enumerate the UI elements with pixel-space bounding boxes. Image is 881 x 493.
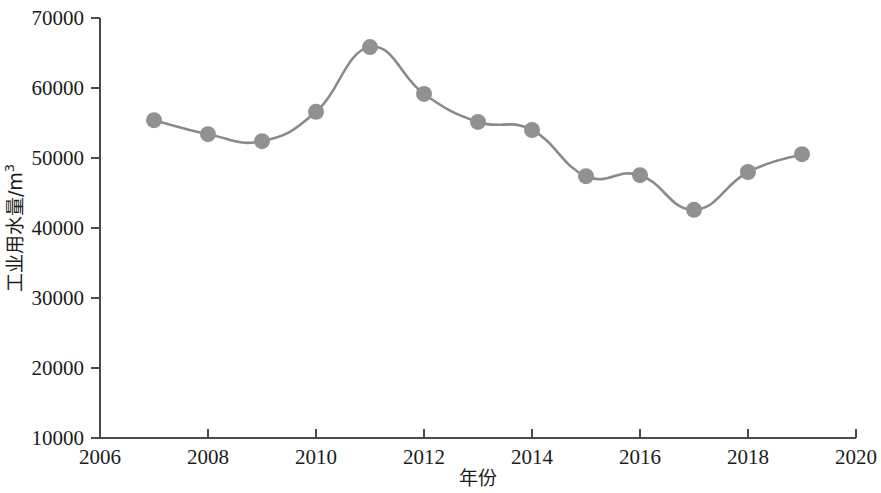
y-tick-label: 70000 <box>32 6 85 30</box>
data-point <box>362 39 378 55</box>
data-point <box>632 167 648 183</box>
x-axis-title: 年份 <box>459 467 497 489</box>
y-tick-label: 10000 <box>32 426 85 450</box>
y-tick-label: 20000 <box>32 356 85 380</box>
data-point <box>578 168 594 184</box>
data-point <box>200 126 216 142</box>
data-point <box>524 122 540 138</box>
data-point <box>794 146 810 162</box>
data-point <box>470 114 486 130</box>
x-tick-label: 2006 <box>79 445 121 469</box>
x-tick-label: 2012 <box>403 445 445 469</box>
chart-container: 10000200003000040000500006000070000 2006… <box>0 0 881 493</box>
y-axis-title-group: 工业用水量/m3 <box>2 164 26 292</box>
x-tick-label: 2016 <box>619 445 661 469</box>
x-tick-label: 2018 <box>727 445 769 469</box>
y-tick-label: 30000 <box>32 286 85 310</box>
y-tick-label: 50000 <box>32 146 85 170</box>
data-point <box>686 202 702 218</box>
chart-background <box>0 0 881 493</box>
y-axis-title: 工业用水量/m3 <box>2 164 26 292</box>
line-chart: 10000200003000040000500006000070000 2006… <box>0 0 881 493</box>
x-tick-label: 2008 <box>187 445 229 469</box>
data-point <box>308 104 324 120</box>
data-point <box>146 112 162 128</box>
x-tick-label: 2014 <box>511 445 554 469</box>
data-point <box>254 133 270 149</box>
y-tick-label: 40000 <box>32 216 85 240</box>
y-tick-label: 60000 <box>32 76 85 100</box>
data-point <box>740 164 756 180</box>
x-tick-label: 2020 <box>835 445 877 469</box>
data-point <box>416 86 432 102</box>
x-tick-label: 2010 <box>295 445 337 469</box>
